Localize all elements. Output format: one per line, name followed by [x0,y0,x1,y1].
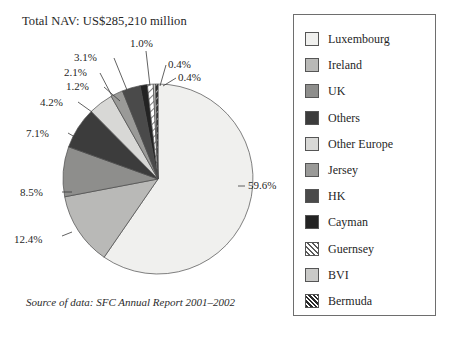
legend-item-label: UK [328,85,345,97]
slice-percent-label: 3.1% [74,51,97,63]
pie-chart-figure: Total NAV: US$285,210 million 59.6%12.4%… [0,0,456,338]
pie-chart-area: 59.6%12.4%8.5%7.1%4.2%2.1%3.1%1.2%1.0%0.… [0,0,290,338]
legend-item[interactable]: HK [305,183,429,209]
leader-line [78,102,92,112]
slice-percent-label: 7.1% [26,127,49,139]
slice-percent-label: 2.1% [64,66,87,78]
legend-swatch-icon [305,268,319,282]
legend-item[interactable]: Guernsey [305,236,429,262]
legend-swatch-icon [305,163,319,177]
legend-item[interactable]: Jersey [305,157,429,183]
legend-swatch-icon [305,294,319,308]
legend-item[interactable]: Others [305,105,429,131]
legend-item-label: Ireland [328,59,362,71]
legend-item-label: Cayman [328,216,368,228]
legend-item[interactable]: Ireland [305,52,429,78]
leader-line [146,51,150,86]
slice-percent-label: 59.6% [248,179,276,191]
slice-percent-label: 4.2% [40,96,63,108]
leader-line [62,232,72,236]
slice-percent-label: 0.4% [178,71,201,83]
source-note: Source of data: SFC Annual Report 2001–2… [26,296,235,308]
pie-slices [63,84,253,274]
legend-item[interactable]: Cayman [305,209,429,235]
legend-swatch-icon [305,137,319,151]
legend-swatch-icon [305,215,319,229]
leader-line [160,65,166,86]
legend-item-label: Guernsey [328,243,374,255]
legend-item-label: BVI [328,269,349,281]
legend-swatch-icon [305,32,319,46]
legend-item[interactable]: Bermuda [305,288,429,314]
leader-line [114,58,127,90]
legend-item-label: Luxembourg [328,33,390,45]
legend-swatch-icon [305,189,319,203]
legend-list: LuxembourgIrelandUKOthersOther EuropeJer… [305,26,429,314]
legend-item-label: Bermuda [328,295,372,307]
slice-percent-label: 0.4% [168,58,191,70]
legend-swatch-icon [305,242,319,256]
legend-item-label: Jersey [328,164,358,176]
legend-item-label: HK [328,190,345,202]
slice-percent-label: 1.0% [130,37,153,49]
slice-percent-label: 8.5% [20,186,43,198]
legend-item-label: Others [328,112,360,124]
legend-swatch-icon [305,58,319,72]
legend-swatch-icon [305,84,319,98]
legend-item-label: Other Europe [328,138,393,150]
legend-item[interactable]: BVI [305,262,429,288]
legend-item[interactable]: Luxembourg [305,26,429,52]
pie-chart-svg: 59.6%12.4%8.5%7.1%4.2%2.1%3.1%1.2%1.0%0.… [0,0,290,338]
slice-percent-label: 12.4% [14,233,42,245]
legend-item[interactable]: Other Europe [305,131,429,157]
slice-percent-label: 1.2% [66,80,89,92]
legend-box: LuxembourgIrelandUKOthersOther EuropeJer… [293,14,436,316]
legend-item[interactable]: UK [305,78,429,104]
legend-swatch-icon [305,111,319,125]
